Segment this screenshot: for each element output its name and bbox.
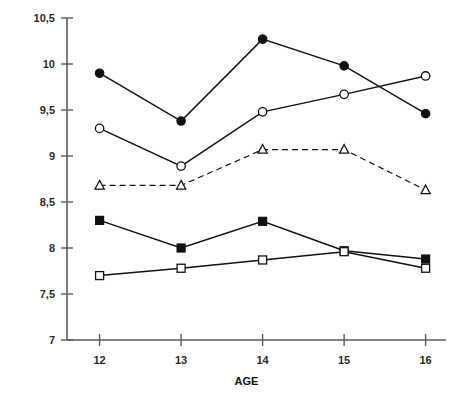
open-triangle-marker — [340, 145, 349, 154]
open-circle-marker — [177, 162, 185, 170]
y-tick-label: 7,5 — [40, 288, 55, 300]
y-axis: 77,588,599,51010,5 — [34, 12, 73, 346]
x-tick-label: 12 — [93, 354, 105, 366]
open-square-marker — [177, 264, 185, 272]
filled-circle-marker — [177, 117, 185, 125]
y-tick-label: 7 — [49, 334, 55, 346]
open-square-marker — [259, 256, 267, 264]
open-circle-marker — [340, 90, 348, 98]
y-tick-label: 9,5 — [40, 104, 55, 116]
filled-circle-marker — [340, 62, 348, 70]
x-axis-title: AGE — [235, 375, 259, 387]
filled-circle-marker — [421, 109, 429, 117]
open-square-marker — [422, 264, 430, 272]
series-layer — [95, 35, 430, 280]
series-open-circle-series — [95, 72, 429, 171]
x-tick-label: 14 — [256, 354, 269, 366]
open-circle-marker — [258, 108, 266, 116]
filled-square-marker — [422, 255, 430, 263]
open-triangle-marker — [258, 145, 267, 154]
open-square-marker — [96, 272, 104, 280]
series-path — [100, 220, 426, 259]
open-triangle-marker — [177, 180, 186, 189]
y-tick-label: 9 — [49, 150, 55, 162]
series-open-square-series — [96, 248, 430, 280]
open-triangle-marker — [95, 180, 104, 189]
filled-square-marker — [259, 217, 267, 225]
open-circle-marker — [421, 72, 429, 80]
y-tick-label: 8,5 — [40, 196, 55, 208]
y-tick-label: 10 — [43, 58, 55, 70]
x-axis: 1213141516 — [67, 334, 446, 366]
x-tick-label: 16 — [419, 354, 431, 366]
y-tick-label: 8 — [49, 242, 55, 254]
filled-circle-marker — [95, 69, 103, 77]
open-square-marker — [340, 248, 348, 256]
x-tick-label: 13 — [175, 354, 187, 366]
y-tick-label: 10,5 — [34, 12, 55, 24]
series-path — [100, 150, 426, 190]
chart-canvas: 77,588,599,51010,5 1213141516 AGE — [0, 0, 456, 395]
axis-titles: AGE — [235, 375, 259, 387]
filled-circle-marker — [258, 35, 266, 43]
filled-square-marker — [177, 244, 185, 252]
series-open-triangle-series — [95, 145, 430, 194]
open-triangle-marker — [421, 185, 430, 194]
x-tick-label: 15 — [338, 354, 350, 366]
open-circle-marker — [95, 124, 103, 132]
line-chart: 77,588,599,51010,5 1213141516 AGE — [0, 0, 456, 395]
filled-square-marker — [96, 216, 104, 224]
